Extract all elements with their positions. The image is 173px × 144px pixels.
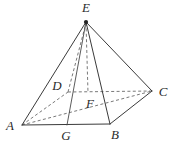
vertex-label-D: D [51, 78, 62, 93]
vertex-label-G: G [61, 128, 71, 143]
vertex-label-E: E [81, 0, 90, 15]
vertex-dot-E [84, 20, 88, 24]
geometry-figure-canvas: E D C A B F G [0, 0, 173, 144]
vertex-label-B: B [111, 127, 119, 142]
edge-BC [110, 91, 152, 124]
edge-AB [22, 124, 110, 125]
edge-DE-dashed [68, 23, 86, 92]
edge-EF-altitude-dashed [86, 23, 88, 93]
pyramid-diagram: E D C A B F G [0, 0, 173, 144]
edge-AD-dashed [22, 92, 68, 125]
vertex-label-C: C [159, 84, 168, 99]
edge-DC-dashed [68, 91, 152, 92]
vertex-label-F: F [85, 96, 95, 111]
vertex-label-A: A [5, 118, 14, 133]
edge-CE [86, 22, 152, 91]
